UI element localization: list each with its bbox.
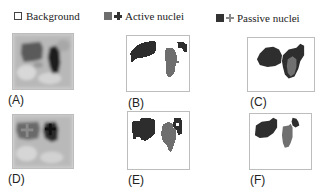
panel-e-segmentation [127,111,190,170]
legend-passive-nuclei: Passive nuclei [216,12,300,24]
panel-a-label: (A) [8,93,24,107]
legend-background: Background [14,10,80,22]
passive-square-icon [216,14,224,22]
panel-a-image [12,33,74,90]
empty-square-icon [14,12,22,20]
panel-b-segmentation [126,35,190,92]
legend-passive-label: Passive nuclei [237,12,300,24]
segmentation-mask [250,114,311,169]
microscopy-image [13,115,73,168]
panel-d-label: (D) [8,172,25,186]
active-square-icon [104,12,112,20]
legend-active-nuclei: Active nuclei [104,10,184,22]
panel-e-label: (E) [128,173,144,187]
plus-icon [114,12,122,20]
panel-d-image [12,114,74,169]
segmentation-mask [128,112,189,169]
panel-b-label: (B) [128,96,144,110]
panel-c-segmentation [247,37,315,92]
plus-icon [226,14,234,22]
segmentation-mask [248,38,314,91]
legend-background-label: Background [26,10,80,22]
legend-active-label: Active nuclei [125,10,184,22]
panel-f-label: (F) [250,173,265,187]
panel-f-segmentation [249,113,312,170]
microscopy-image [13,34,73,89]
segmentation-mask [127,36,189,91]
panel-c-label: (C) [250,95,267,109]
